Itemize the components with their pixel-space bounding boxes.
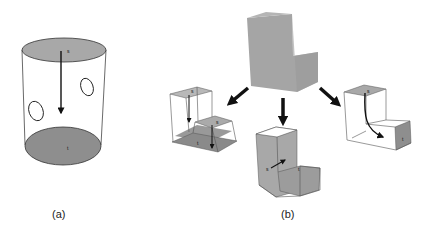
caption-b: (b) xyxy=(281,208,294,220)
source-face xyxy=(22,38,106,62)
decomposition-right: s t xyxy=(344,85,411,150)
hole-right xyxy=(78,76,95,97)
target-face xyxy=(25,127,101,165)
caption-a: (a) xyxy=(52,208,65,220)
figure-canvas: s t s s t xyxy=(0,0,430,237)
hole-left xyxy=(26,99,46,123)
panel-b-solid xyxy=(247,12,318,92)
arrow-left xyxy=(230,88,248,103)
panel-a-cylinder: s t xyxy=(22,38,106,165)
decomposition-middle: s t xyxy=(256,127,320,197)
arrow-right xyxy=(320,88,338,104)
decomposition-left: s s t xyxy=(170,87,237,152)
